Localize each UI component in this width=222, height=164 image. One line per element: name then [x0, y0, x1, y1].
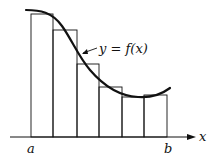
leader-arrow-icon	[82, 49, 88, 54]
rectangle-4	[99, 87, 122, 137]
endpoint-label-a: a	[27, 141, 35, 156]
rectangle-6	[144, 95, 167, 137]
riemann-sum-diagram: y = f(x) x a b	[0, 0, 222, 164]
curve-label: y = f(x)	[98, 41, 148, 56]
endpoint-label-b: b	[164, 141, 172, 156]
function-curve	[26, 10, 170, 97]
x-axis-arrow-icon	[187, 134, 196, 140]
rectangles	[31, 14, 167, 137]
rectangle-1	[31, 14, 53, 137]
axis-label-x: x	[199, 129, 207, 144]
rectangle-5	[122, 97, 144, 137]
